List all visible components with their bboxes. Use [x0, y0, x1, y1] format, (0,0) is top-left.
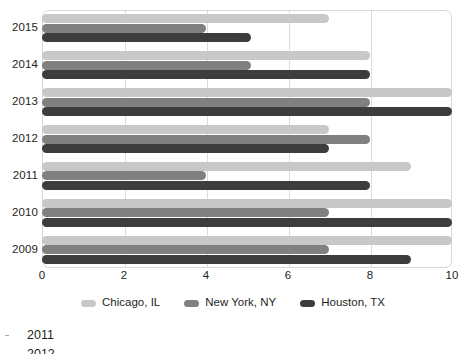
y-tick-label: 2013: [0, 96, 38, 108]
legend-item[interactable]: Houston, TX: [300, 297, 385, 309]
legend-item[interactable]: Chicago, IL: [81, 297, 160, 309]
bar-new-york-2011: [42, 171, 206, 180]
legend-swatch-icon: [184, 300, 199, 307]
bar-houston-2013: [42, 107, 452, 116]
bar-chicago-2014: [42, 51, 370, 60]
bar-new-york-2009: [42, 245, 329, 254]
bar-houston-2011: [42, 181, 370, 190]
bar-chicago-2009: [42, 236, 452, 245]
bar-new-york-2010: [42, 208, 329, 217]
legend-label: Houston, TX: [321, 297, 385, 309]
bullet-icon: [5, 335, 9, 336]
bars-layer: [42, 10, 452, 268]
list-item-label: 2012: [27, 345, 55, 354]
bar-chicago-2010: [42, 199, 452, 208]
legend-item[interactable]: New York, NY: [184, 297, 276, 309]
y-tick-label: 2009: [0, 244, 38, 256]
y-tick-label: 2014: [0, 59, 38, 71]
bar-new-york-2012: [42, 135, 370, 144]
y-tick-label: 2011: [0, 170, 38, 182]
list-item: 2011: [0, 326, 466, 345]
bar-houston-2010: [42, 218, 452, 227]
bar-chicago-2015: [42, 14, 329, 23]
x-tick-label: 10: [432, 270, 466, 282]
list-item-label: 2011: [27, 326, 54, 345]
footer-list: 2011 2012: [0, 326, 466, 354]
x-axis: 0246810: [0, 270, 466, 290]
bar-houston-2009: [42, 255, 411, 264]
legend-label: Chicago, IL: [102, 297, 160, 309]
legend-swatch-icon: [300, 300, 315, 307]
x-tick-label: 6: [268, 270, 308, 282]
bar-new-york-2013: [42, 98, 370, 107]
y-tick-label: 2012: [0, 133, 38, 145]
bar-houston-2014: [42, 70, 370, 79]
x-tick-label: 8: [350, 270, 390, 282]
x-tick-label: 0: [22, 270, 62, 282]
bar-chicago-2013: [42, 88, 452, 97]
bar-houston-2015: [42, 33, 251, 42]
x-tick-label: 4: [186, 270, 226, 282]
y-tick-label: 2010: [0, 207, 38, 219]
y-tick-label: 2015: [0, 22, 38, 34]
bar-new-york-2015: [42, 24, 206, 33]
bar-chicago-2012: [42, 125, 329, 134]
legend-label: New York, NY: [205, 297, 276, 309]
bar-new-york-2014: [42, 61, 251, 70]
legend-swatch-icon: [81, 300, 96, 307]
bar-chart: 2015201420132012201120102009 0246810 Chi…: [0, 0, 466, 361]
y-axis: 2015201420132012201120102009: [0, 10, 38, 268]
bar-chicago-2011: [42, 162, 411, 171]
bar-houston-2012: [42, 144, 329, 153]
x-tick-label: 2: [104, 270, 144, 282]
chart-legend: Chicago, ILNew York, NYHouston, TX: [0, 293, 466, 313]
list-item: 2012: [0, 345, 466, 354]
